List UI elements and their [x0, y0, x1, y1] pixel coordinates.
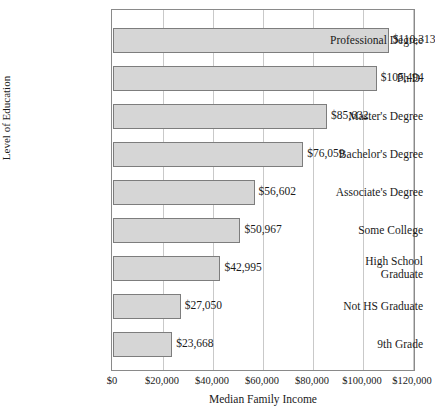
- value-label: $42,995: [224, 261, 261, 274]
- bar: [113, 294, 181, 319]
- x-tick-label: $20,000: [145, 375, 179, 386]
- x-tick-label: $40,000: [195, 375, 229, 386]
- category-label: 9th Grade: [322, 338, 428, 351]
- value-label: $56,602: [259, 185, 296, 198]
- x-tick-label: $120,000: [392, 375, 431, 386]
- bar: [113, 256, 220, 281]
- bar: [113, 218, 240, 243]
- x-tick-label: $80,000: [295, 375, 329, 386]
- value-label: $110,313: [393, 33, 435, 46]
- y-axis-title: Level of Education: [0, 58, 12, 178]
- category-label: High School Graduate: [322, 255, 428, 281]
- gridline-4: [313, 10, 314, 370]
- value-label: $85,632: [331, 109, 368, 122]
- value-label: $105,494: [381, 71, 424, 84]
- bar: [113, 104, 327, 129]
- category-label: Not HS Graduate: [322, 300, 428, 313]
- category-label: Associate's Degree: [322, 186, 428, 199]
- x-tick-label: $0: [107, 375, 118, 386]
- bar: [113, 332, 172, 357]
- bar: [113, 142, 303, 167]
- x-axis-title: Median Family Income: [111, 393, 415, 405]
- value-label: $50,967: [244, 223, 281, 236]
- value-label: $23,668: [176, 337, 213, 350]
- x-tick-label: $60,000: [245, 375, 279, 386]
- category-label: Some College: [322, 224, 428, 237]
- value-label: $27,050: [185, 299, 222, 312]
- x-tick-label: $100,000: [342, 375, 381, 386]
- bar: [113, 180, 255, 205]
- value-label: $76,059: [307, 147, 344, 160]
